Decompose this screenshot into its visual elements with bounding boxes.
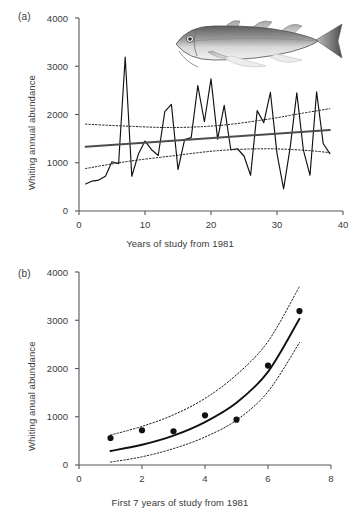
data-point <box>107 435 113 441</box>
data-point <box>170 428 176 434</box>
series-lower-confidence-band <box>111 342 300 462</box>
data-point <box>233 417 239 423</box>
series-exponential-fit <box>111 319 300 451</box>
series-lower-confidence-band <box>86 149 330 169</box>
data-point <box>265 363 271 369</box>
data-point <box>296 308 302 314</box>
data-point <box>139 427 145 433</box>
panel-b-chart: (b) Whiting anual abundance First 7 year… <box>0 258 360 516</box>
series-linear-trend <box>86 130 330 147</box>
panel-b-plot-area <box>0 258 360 516</box>
data-point <box>202 412 208 418</box>
panel-a-plot-area <box>0 0 360 258</box>
series-whiting-annual-abundance <box>86 57 330 189</box>
panel-a-chart: (a) Whiting annual abundance Years of st… <box>0 0 360 258</box>
